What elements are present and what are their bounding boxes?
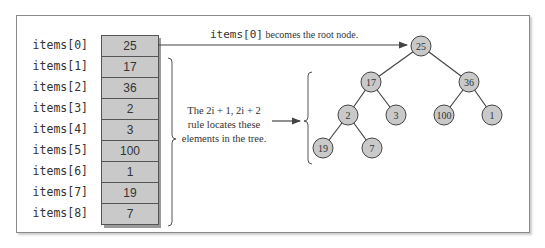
svg-text:17: 17: [366, 77, 376, 88]
tree-node: 7: [362, 138, 382, 158]
svg-text:36: 36: [464, 77, 474, 88]
diagram-graphics: 25 17 36 2 3 100 1 19 7: [0, 0, 545, 248]
tree-node: 100: [434, 105, 454, 125]
tree-node: 1: [482, 105, 502, 125]
array-brace: [168, 58, 176, 226]
tree-node: 3: [386, 105, 406, 125]
tree-nodes: 25 17 36 2 3 100 1 19 7: [313, 36, 502, 158]
svg-text:3: 3: [394, 110, 399, 121]
svg-text:19: 19: [318, 143, 328, 154]
tree-node: 17: [361, 72, 381, 92]
tree-node: 25: [411, 36, 431, 56]
svg-text:7: 7: [370, 143, 375, 154]
tree-node: 2: [338, 105, 358, 125]
tree-brace: [304, 72, 312, 164]
svg-text:1: 1: [490, 110, 495, 121]
tree-node: 36: [459, 72, 479, 92]
svg-text:25: 25: [416, 41, 426, 52]
tree-node: 19: [313, 138, 333, 158]
svg-text:100: 100: [437, 110, 452, 121]
tree-edges: [323, 46, 492, 148]
svg-text:2: 2: [346, 110, 351, 121]
